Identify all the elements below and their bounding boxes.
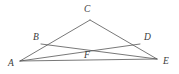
vertex-label-e: E	[163, 57, 169, 67]
geometry-figure: A B C D E F	[0, 0, 179, 74]
vertex-label-c: C	[84, 5, 90, 15]
vertex-label-f: F	[84, 51, 90, 61]
vertex-label-d: D	[144, 33, 151, 43]
segment-ac	[20, 20, 90, 61]
segment-ad	[20, 44, 140, 61]
vertex-label-a: A	[8, 59, 14, 69]
segment-be	[41, 44, 157, 59]
vertex-label-b: B	[33, 33, 39, 43]
